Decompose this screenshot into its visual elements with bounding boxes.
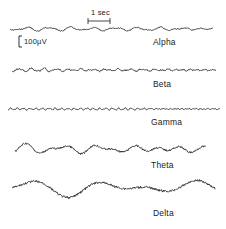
- alpha-label: Alpha: [153, 37, 176, 47]
- beta-label: Beta: [153, 79, 171, 89]
- gamma-trace: [8, 108, 220, 111]
- trace-group: [8, 26, 220, 198]
- time-scale-label: 1 sec: [91, 8, 110, 17]
- delta-label: Delta: [153, 208, 174, 218]
- beta-trace: [12, 68, 216, 72]
- amplitude-scale-label: 100µV: [24, 37, 47, 46]
- time-scale-bar: [88, 18, 110, 24]
- amplitude-scale-bracket: [19, 36, 22, 47]
- delta-trace: [12, 180, 215, 199]
- gamma-label: Gamma: [151, 117, 182, 127]
- alpha-trace: [10, 26, 213, 31]
- theta-trace: [15, 143, 206, 155]
- eeg-traces-figure: [0, 0, 226, 229]
- theta-label: Theta: [151, 160, 174, 170]
